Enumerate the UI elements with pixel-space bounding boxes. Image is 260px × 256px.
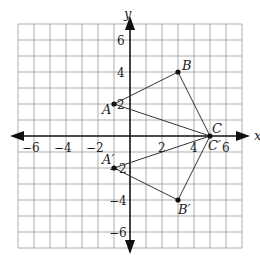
y-tick: −4	[109, 194, 127, 208]
y-tick-labels: 6 4 2 −2 −4 −6	[109, 34, 127, 240]
label-c: C	[212, 121, 222, 136]
label-a: A	[101, 102, 111, 117]
point-b	[175, 69, 180, 74]
x-axis-left-arrow-icon	[10, 131, 24, 141]
y-tick: 4	[117, 66, 125, 80]
label-b-prime: B′	[177, 202, 191, 217]
x-axis-right-arrow-icon	[236, 131, 250, 141]
x-tick: −4	[54, 141, 72, 155]
x-tick: −6	[22, 141, 40, 155]
label-b: B	[181, 58, 192, 73]
point-a	[111, 101, 116, 106]
label-c-prime: C′	[208, 138, 221, 153]
y-axis-label: y	[123, 6, 132, 21]
x-axis-label: x	[254, 128, 260, 143]
x-tick: 6	[222, 141, 230, 155]
y-axis-down-arrow-icon	[125, 240, 135, 254]
y-tick: 6	[117, 34, 125, 48]
y-axis	[125, 16, 135, 254]
label-a-prime: A′	[101, 152, 114, 167]
x-tick: 4	[190, 141, 198, 155]
x-tick-labels: −6 −4 −2 2 4 6	[22, 141, 230, 155]
y-tick: −6	[109, 226, 127, 240]
coordinate-plane: x y −6 −4 −2 2 4 6 6 4 2 −2 −4 −6 A B C …	[0, 0, 260, 256]
